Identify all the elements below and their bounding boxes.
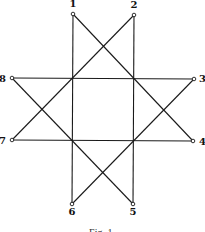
star-polygon-diagram: 12345678 Fig. 1. (0, 0, 205, 232)
node-1 (71, 12, 75, 16)
node-label-2: 2 (131, 0, 138, 10)
node-2 (132, 13, 136, 17)
node-3 (192, 77, 196, 81)
nodes-group (10, 12, 196, 206)
node-label-6: 6 (69, 206, 76, 217)
node-label-4: 4 (199, 136, 205, 147)
edge-1-6 (72, 14, 73, 204)
node-7 (10, 138, 14, 142)
edge-2-5 (133, 15, 134, 204)
labels-group: 12345678 (0, 0, 205, 217)
node-label-1: 1 (70, 0, 77, 9)
edges-group (12, 14, 194, 204)
figure-caption: Fig. 1. (89, 227, 115, 232)
node-8 (10, 76, 14, 80)
node-label-8: 8 (0, 73, 6, 84)
edge-8-3 (12, 78, 194, 79)
node-label-3: 3 (199, 73, 205, 84)
node-4 (191, 139, 195, 143)
edge-7-4 (12, 140, 193, 141)
node-label-7: 7 (0, 135, 6, 146)
node-label-5: 5 (130, 206, 137, 217)
